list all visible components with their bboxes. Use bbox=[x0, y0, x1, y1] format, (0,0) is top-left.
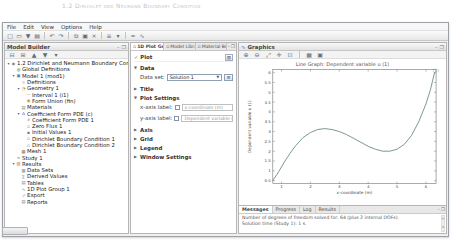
physics-icon: Δ bbox=[21, 111, 26, 116]
page-caption: 1.2 Dirichlet and Neumann Boundary Condi… bbox=[62, 2, 201, 9]
data-set-extra-button[interactable]: ⊞ bbox=[224, 74, 233, 81]
messages-tab-results[interactable]: Results bbox=[316, 206, 340, 213]
settings-float-icon[interactable]: ❐ bbox=[231, 44, 235, 49]
new-icon[interactable]: □ bbox=[6, 32, 14, 40]
section-collapsed-icon: ▶ bbox=[134, 86, 138, 91]
select-value: Solution 1 bbox=[170, 75, 194, 80]
chart-text: 3.5 bbox=[265, 119, 272, 124]
compute-icon[interactable]: = bbox=[129, 32, 137, 40]
redo-icon[interactable]: ↷ bbox=[57, 32, 65, 40]
bc-node-icon: ▫ bbox=[26, 136, 31, 141]
tree-item-label: Reports bbox=[27, 199, 48, 205]
messages-tab-messages[interactable]: Messages bbox=[239, 206, 273, 213]
tree-item-label: Study 1 bbox=[22, 155, 43, 161]
axis-label-checkbox[interactable] bbox=[174, 116, 179, 121]
messages-minimize-icon[interactable]: – bbox=[438, 207, 440, 212]
tab-label: Model Librar... bbox=[170, 44, 195, 49]
axis-label-field[interactable]: x-coordinate (m) bbox=[182, 104, 233, 111]
model-builder-minimize-icon[interactable]: – bbox=[117, 44, 120, 50]
messages-panel: MessagesProgressLogResults–❐ ▲▼ Number o… bbox=[239, 205, 446, 233]
chart-text: 2 bbox=[268, 149, 271, 154]
graphics-float-icon[interactable]: ❐ bbox=[440, 44, 444, 50]
zoom-out-icon[interactable]: ⊖ bbox=[253, 51, 261, 59]
options-dropdown-icon[interactable]: ≡ bbox=[105, 32, 113, 40]
materials-icon: ▤ bbox=[21, 105, 26, 110]
tree-item-label: Global Definitions bbox=[22, 66, 70, 72]
move-down-icon[interactable]: ▼ bbox=[41, 51, 49, 59]
section-data[interactable]: ▼Data bbox=[134, 63, 233, 72]
settings-tab[interactable]: ▫1D Plot Gro... bbox=[131, 43, 164, 50]
copy-icon[interactable]: ⧉ bbox=[72, 32, 80, 40]
save-icon[interactable]: ▼ bbox=[24, 32, 32, 40]
scroll-down-icon[interactable]: ▼ bbox=[442, 225, 444, 231]
zoom-in-icon[interactable]: ⊕ bbox=[242, 51, 250, 59]
settings-row: Data set:Solution 1▼⊞ bbox=[140, 73, 233, 81]
graphics-title: Graphics bbox=[248, 44, 275, 50]
snapshot-icon[interactable]: ▣ bbox=[316, 51, 324, 59]
tree-item-label: Data Sets bbox=[27, 167, 53, 173]
messages-scrollbar[interactable]: ▲▼ bbox=[441, 215, 445, 232]
axis-label-checkbox[interactable] bbox=[175, 105, 180, 110]
open-icon[interactable]: ▭ bbox=[15, 32, 23, 40]
tree-item-label: Initial Values 1 bbox=[32, 129, 71, 135]
menu-item-help[interactable]: Help bbox=[89, 24, 102, 30]
tab-icon: ▫ bbox=[133, 44, 136, 49]
settings-minimize-icon[interactable]: – bbox=[228, 44, 230, 49]
plot-check-icon: ✓ bbox=[134, 54, 138, 60]
section-label: Grid bbox=[140, 136, 153, 142]
scroll-up-icon[interactable]: ▲ bbox=[442, 216, 444, 222]
section-plot-settings[interactable]: ▼Plot Settings bbox=[134, 93, 233, 102]
messages-tab-log[interactable]: Log bbox=[300, 206, 316, 213]
plot-area[interactable]: Line Graph: Dependent variable u (1) (1)… bbox=[239, 59, 446, 205]
menu-item-options[interactable]: Options bbox=[61, 24, 82, 30]
collapse-all-icon[interactable]: ⊟ bbox=[8, 51, 16, 59]
tree-item[interactable]: ▤Reports bbox=[6, 199, 128, 205]
taskbar-fragment bbox=[2, 227, 28, 235]
settings-window-buttons: –❐ bbox=[227, 43, 236, 50]
print-icon[interactable]: ▤ bbox=[33, 32, 41, 40]
section-grid[interactable]: ▶Grid bbox=[134, 134, 233, 143]
zoom-extents-icon[interactable]: ⤢ bbox=[264, 51, 272, 59]
model-builder-float-icon[interactable]: ❐ bbox=[122, 44, 126, 50]
dropdown-caret-icon[interactable]: ▾ bbox=[114, 32, 122, 40]
move-up-icon[interactable]: ▲ bbox=[30, 51, 38, 59]
form-union-icon: ◉ bbox=[26, 98, 31, 103]
results-icon: ▥ bbox=[16, 161, 21, 166]
bc-node-icon: ▫ bbox=[26, 143, 31, 148]
delete-icon[interactable]: × bbox=[90, 32, 98, 40]
init-node-icon: ▪ bbox=[26, 130, 31, 135]
section-title[interactable]: ▶Title bbox=[134, 84, 233, 93]
menu-item-file[interactable]: File bbox=[7, 24, 16, 30]
data-set-select[interactable]: Solution 1▼ bbox=[167, 74, 222, 81]
chart-text: 5 bbox=[396, 184, 399, 189]
settings-tab[interactable]: ▫Model Librar... bbox=[164, 43, 195, 50]
menu-item-edit[interactable]: Edit bbox=[23, 24, 34, 30]
axis-label-field[interactable]: Dependent variable u (1) bbox=[181, 115, 233, 122]
flux-node-icon: ▫ bbox=[26, 124, 31, 129]
section-window-settings[interactable]: ▶Window Settings bbox=[134, 152, 233, 161]
show-options-icon[interactable]: ▾ bbox=[52, 51, 60, 59]
paste-icon[interactable]: ▣ bbox=[81, 32, 89, 40]
expand-all-icon[interactable]: ⊞ bbox=[19, 51, 27, 59]
undo-icon[interactable]: ↶ bbox=[48, 32, 56, 40]
section-axis[interactable]: ▶Axis bbox=[134, 125, 233, 134]
chart-text: 0.5 bbox=[265, 178, 272, 183]
menu-item-view[interactable]: View bbox=[41, 24, 54, 30]
graphics-minimize-icon[interactable]: – bbox=[435, 44, 438, 50]
derived-values-icon: ∑ bbox=[21, 174, 26, 179]
geometry-icon: ◔ bbox=[21, 86, 26, 91]
zoom-box-icon[interactable]: ⊡ bbox=[286, 51, 294, 59]
settings-tab[interactable]: ▫Material Bro... bbox=[196, 43, 227, 50]
tree-item[interactable]: ▾◆1.2 Dirichlet and Neumann Boundary Con… bbox=[6, 60, 128, 66]
grid-icon[interactable]: ▦ bbox=[305, 51, 313, 59]
chart-text: 5.5 bbox=[265, 80, 272, 85]
section-legend[interactable]: ▶Legend bbox=[134, 143, 233, 152]
pan-icon[interactable]: ✛ bbox=[275, 51, 283, 59]
chart-text: 1 bbox=[280, 184, 283, 189]
tree-item-label: Interval 1 (i1) bbox=[32, 92, 69, 98]
plot-button[interactable]: ⊞ bbox=[225, 54, 233, 61]
toolbar-separator bbox=[101, 32, 102, 39]
messages-tab-progress[interactable]: Progress bbox=[273, 206, 300, 213]
messages-float-icon[interactable]: ❐ bbox=[441, 207, 445, 212]
plot-icon[interactable]: ∿ bbox=[138, 32, 146, 40]
